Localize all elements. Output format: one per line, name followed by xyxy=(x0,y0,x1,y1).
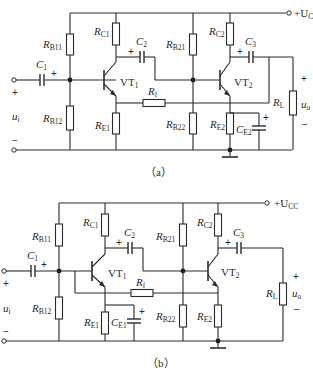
label-VT2: VT2 xyxy=(221,266,240,280)
label-RE1: RE1 xyxy=(83,316,99,330)
resistor-RB12 xyxy=(56,297,63,319)
label-uo: uo xyxy=(292,287,302,301)
label-VT2: VT2 xyxy=(234,76,253,90)
label-RC1: RC1 xyxy=(93,25,110,39)
resistor-RE1 xyxy=(113,113,120,134)
label-VT1: VT1 xyxy=(108,267,127,281)
resistor-RC2 xyxy=(215,214,222,236)
label-CE1: CE1 xyxy=(111,316,127,330)
svg-text:+: + xyxy=(128,46,134,57)
input-ground-terminal xyxy=(2,339,6,343)
resistor-Rf xyxy=(131,290,153,297)
caption-b: （b） xyxy=(147,357,175,369)
svg-text:−: − xyxy=(12,135,18,146)
input-ground-terminal xyxy=(12,148,16,152)
resistor-RE2 xyxy=(215,305,222,327)
resistor-RB11 xyxy=(67,34,74,55)
svg-text:+: + xyxy=(301,73,307,84)
label-RE1: RE1 xyxy=(94,119,110,133)
caption-a: （a） xyxy=(145,166,172,178)
label-RE2: RE2 xyxy=(196,310,212,324)
label-RB12: RB12 xyxy=(31,302,51,316)
label-ui: ui xyxy=(3,302,11,316)
label-RL: RL xyxy=(272,96,285,110)
svg-text:+: + xyxy=(139,306,145,317)
label-Rf: Rf xyxy=(135,276,146,290)
resistor-RL xyxy=(290,91,297,115)
resistor-Rf xyxy=(143,100,165,107)
label-RB22: RB22 xyxy=(155,310,175,324)
resistor-RB21 xyxy=(180,224,187,246)
svg-text:−: − xyxy=(3,326,9,337)
label-RC2: RC2 xyxy=(208,25,225,39)
label-RC2: RC2 xyxy=(196,216,213,230)
resistor-RE2 xyxy=(227,113,234,134)
resistor-RB22 xyxy=(180,305,187,327)
label-RB12: RB12 xyxy=(42,112,62,126)
label-ui: ui xyxy=(12,110,20,124)
label-VT1: VT1 xyxy=(120,76,139,90)
label-C2: C2 xyxy=(136,35,147,49)
svg-text:+: + xyxy=(237,46,243,57)
supply-terminal xyxy=(287,11,291,15)
circuit-a: +UCC C1 + + ui − RB11 RB12 RC1 xyxy=(12,7,313,178)
circuit-b: +UCC C1 + + ui − RB11 RB12 R xyxy=(2,197,302,369)
svg-text:+: + xyxy=(3,278,9,289)
input-terminal xyxy=(12,78,16,82)
two-stage-amplifier-figure: +UCC C1 + + ui − RB11 RB12 RC1 xyxy=(0,0,313,377)
svg-text:+: + xyxy=(116,237,122,248)
label-RB21: RB21 xyxy=(165,38,185,52)
label-RC1: RC1 xyxy=(82,216,99,230)
label-Rf: Rf xyxy=(147,85,158,99)
input-terminal xyxy=(2,269,6,273)
resistor-RB22 xyxy=(190,113,197,134)
label-uo: uo xyxy=(301,98,311,112)
resistor-RB12 xyxy=(67,106,74,130)
label-RB11: RB11 xyxy=(42,38,62,52)
label-CE2: CE2 xyxy=(236,123,252,137)
label-RL: RL xyxy=(265,287,278,301)
svg-text:+: + xyxy=(51,68,57,79)
supply-terminal xyxy=(265,201,269,205)
label-C1: C1 xyxy=(27,249,38,263)
svg-text:+: + xyxy=(293,271,299,282)
svg-text:+: + xyxy=(41,259,47,270)
label-RE2: RE2 xyxy=(209,118,225,132)
supply-label: +UCC xyxy=(274,197,298,211)
label-RB22: RB22 xyxy=(165,118,185,132)
svg-text:+: + xyxy=(263,112,269,123)
resistor-RL xyxy=(280,283,287,305)
label-RB21: RB21 xyxy=(155,230,175,244)
resistor-RC1 xyxy=(102,214,109,236)
svg-text:−: − xyxy=(294,304,300,315)
resistor-RB21 xyxy=(190,34,197,55)
svg-text:+: + xyxy=(12,87,18,98)
label-C2: C2 xyxy=(124,226,135,240)
supply-label: +UCC xyxy=(294,7,313,21)
label-C3: C3 xyxy=(233,226,244,240)
label-RB11: RB11 xyxy=(31,230,51,244)
resistor-RC1 xyxy=(113,23,120,45)
resistor-RB11 xyxy=(56,224,63,246)
label-C3: C3 xyxy=(245,35,256,49)
svg-text:+: + xyxy=(225,237,231,248)
label-C1: C1 xyxy=(36,58,47,72)
resistor-RE1 xyxy=(102,312,109,334)
svg-text:−: − xyxy=(302,119,308,130)
resistor-RC2 xyxy=(227,23,234,45)
